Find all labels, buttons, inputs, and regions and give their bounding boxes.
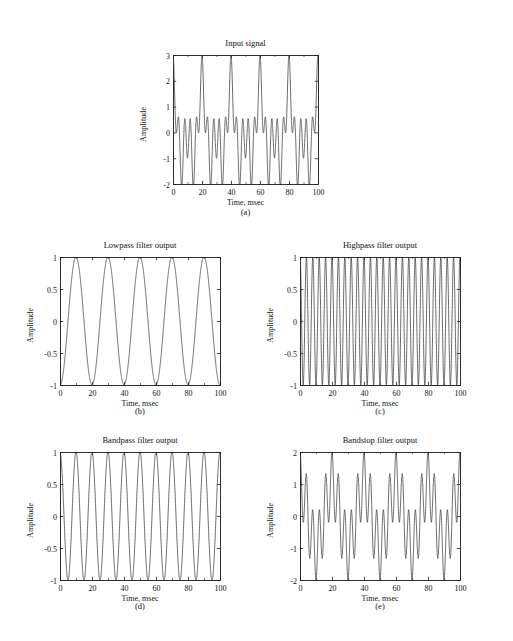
x-tick-label: 20 [329,584,337,593]
axis-box [301,453,461,581]
y-tick-label: 0 [293,513,297,522]
y-tick-label: -1 [290,545,297,554]
x-tick-label: 100 [455,584,467,593]
y-tick-label: 2 [293,449,297,458]
y-tick-label: -2 [290,577,297,586]
caption-bandstop: (e) [300,601,460,611]
x-tick-label: 0 [299,584,303,593]
filter-output-figure: Input signal 020406080100-2-10123 Amplit… [0,0,513,641]
waveform-line [300,452,460,580]
x-tick-label: 60 [393,584,401,593]
panel-title-bandstop: Bandstop filter output [300,435,460,445]
plot-svg-bandstop: 020406080100-2-1012 [274,448,470,596]
y-tick-label: 1 [293,481,297,490]
ylabel-bandstop: Amplitude [266,503,275,538]
panel-bandstop: Bandstop filter output 020406080100-2-10… [0,0,513,641]
x-tick-label: 80 [425,584,433,593]
plot-bandstop: 020406080100-2-1012 [300,452,460,580]
x-tick-label: 40 [361,584,369,593]
